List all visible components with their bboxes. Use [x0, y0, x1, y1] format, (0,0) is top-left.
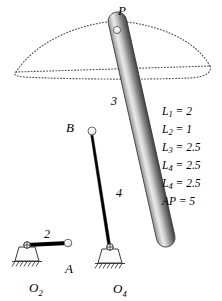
- label-point-o2-letter: O: [29, 280, 38, 295]
- label-link-2: 2: [44, 228, 50, 240]
- pivot-p: [113, 26, 120, 33]
- parameter-row: L3 = 2.5: [162, 140, 201, 158]
- parameter-value: 2.5: [186, 141, 200, 153]
- parameter-value: 1: [186, 123, 192, 135]
- parameter-value: 2: [186, 105, 192, 117]
- label-point-o2-sub: 2: [38, 288, 42, 298]
- label-point-o4-sub: 4: [122, 289, 126, 299]
- label-point-o4: O4: [100, 269, 127, 301]
- label-point-b: B: [66, 121, 74, 134]
- pivot-a: [64, 239, 72, 247]
- parameter-equals: =: [173, 159, 187, 171]
- link-4-rocker: [90, 133, 110, 247]
- parameter-equals: =: [173, 141, 187, 153]
- label-link-4: 4: [116, 187, 122, 199]
- parameter-row: L1 = 2: [162, 104, 201, 122]
- parameter-name: AP: [162, 195, 176, 207]
- label-point-a: A: [65, 262, 73, 275]
- parameter-value: 5: [189, 195, 195, 207]
- label-point-o4-letter: O: [113, 281, 122, 296]
- parameter-equals: =: [173, 177, 187, 189]
- ground-support-o4: [95, 244, 125, 269]
- parameter-row: L4 = 2.5: [162, 158, 201, 176]
- pivot-b: [88, 127, 96, 135]
- label-link-3: 3: [111, 95, 117, 107]
- label-point-p: P: [118, 4, 126, 17]
- parameter-equals: =: [176, 195, 190, 207]
- link-2-crank: [27, 243, 68, 245]
- parameter-value: 2.5: [186, 177, 200, 189]
- parameter-row: L4 = 2.5: [162, 176, 201, 194]
- parameter-row: L2 = 1: [162, 122, 201, 140]
- parameter-equals: =: [173, 105, 187, 117]
- parameter-value: 2.5: [186, 159, 200, 171]
- parameter-equals: =: [173, 123, 187, 135]
- parameter-list: L1 = 2L2 = 1L3 = 2.5L4 = 2.5L4 = 2.5AP =…: [162, 104, 201, 208]
- parameter-row: AP = 5: [162, 194, 201, 209]
- label-point-o2: O2: [16, 268, 43, 301]
